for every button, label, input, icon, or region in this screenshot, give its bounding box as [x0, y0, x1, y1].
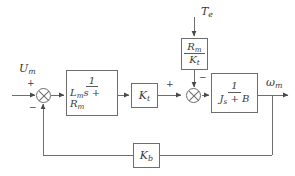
mechanical-transfer-function: 1 Js + B — [217, 81, 253, 105]
electrical-transfer-function: 1 Lms + Rm — [67, 76, 117, 111]
back-emf-gain-block[interactable]: Kb — [133, 143, 160, 168]
electrical-numerator: 1 — [86, 76, 98, 88]
torque-sum-plus-sign: + — [166, 79, 174, 89]
block-diagram-canvas: Um + − 1 Lms + Rm Kt + Te Rm Kt − 1 Js +… — [0, 0, 295, 176]
input-sum-plus-sign: + — [27, 78, 35, 88]
input-signal-label: Um — [19, 62, 36, 76]
mechanical-denominator: Js + B — [217, 93, 253, 105]
disturbance-signal-label: Te — [201, 5, 213, 19]
disturbance-gain-block[interactable]: Rm Kt — [181, 38, 208, 70]
disturbance-transfer-function: Rm Kt — [184, 42, 204, 66]
input-summing-junction[interactable] — [36, 88, 51, 103]
disturbance-numerator: Rm — [184, 42, 204, 54]
torque-summing-junction[interactable] — [186, 88, 201, 103]
torque-constant-gain-block[interactable]: Kt — [131, 83, 158, 108]
torque-sum-minus-sign: − — [199, 72, 207, 82]
mechanical-numerator: 1 — [228, 81, 240, 93]
input-sum-minus-sign: − — [29, 102, 37, 112]
electrical-dynamics-block[interactable]: 1 Lms + Rm — [66, 70, 118, 116]
torque-constant-label: Kt — [139, 89, 150, 103]
output-signal-label: ωm — [266, 76, 282, 90]
electrical-denominator: Lms + Rm — [67, 87, 117, 110]
disturbance-denominator: Kt — [186, 54, 202, 66]
back-emf-label: Kb — [140, 149, 153, 163]
mechanical-dynamics-block[interactable]: 1 Js + B — [211, 73, 258, 113]
